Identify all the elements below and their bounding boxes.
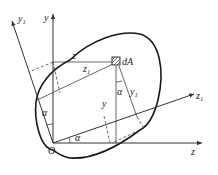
z1-distance-line — [37, 64, 113, 100]
label-origin: O — [48, 145, 55, 156]
label-z1-axis: z1 — [195, 90, 203, 102]
angle-arc-bottom — [69, 137, 70, 143]
label-alpha-bottom: α — [75, 132, 81, 143]
label-z-axis: z — [190, 146, 195, 157]
label-alpha-dA: α — [117, 86, 123, 97]
rotation-diagram: y1 y z z1 dA α y1 y z1 α α O z — [0, 0, 218, 175]
angle-arc-dA — [116, 81, 122, 82]
angle-arc-left — [47, 124, 53, 125]
label-y-axis: y — [43, 12, 49, 23]
y1-axis — [12, 21, 53, 143]
label-y1-axis: y1 — [17, 13, 26, 25]
dash-bottom-right — [112, 128, 144, 143]
area-boundary — [36, 33, 161, 158]
label-alpha-left: α — [42, 107, 48, 118]
dash-y1-proj — [29, 62, 53, 72]
label-dA: dA — [122, 56, 134, 67]
label-z1-distance: z1 — [82, 63, 90, 75]
label-y-distance: y — [101, 98, 107, 109]
area-element-dA — [112, 57, 120, 65]
label-y1-distance: y1 — [129, 86, 138, 98]
label-z-distance: z — [71, 50, 76, 61]
dash-z1-left — [104, 116, 110, 143]
dash-z1-right — [137, 117, 144, 128]
